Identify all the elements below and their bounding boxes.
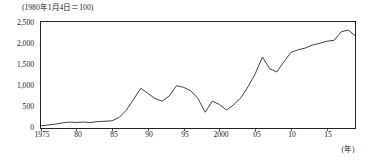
plot-frame bbox=[41, 22, 356, 129]
chart-container: (1980年1月4日＝100) 2,500 2,000 1,500 1,000 … bbox=[0, 0, 378, 161]
chart-plot-area bbox=[0, 0, 378, 161]
data-series-line bbox=[41, 30, 356, 126]
